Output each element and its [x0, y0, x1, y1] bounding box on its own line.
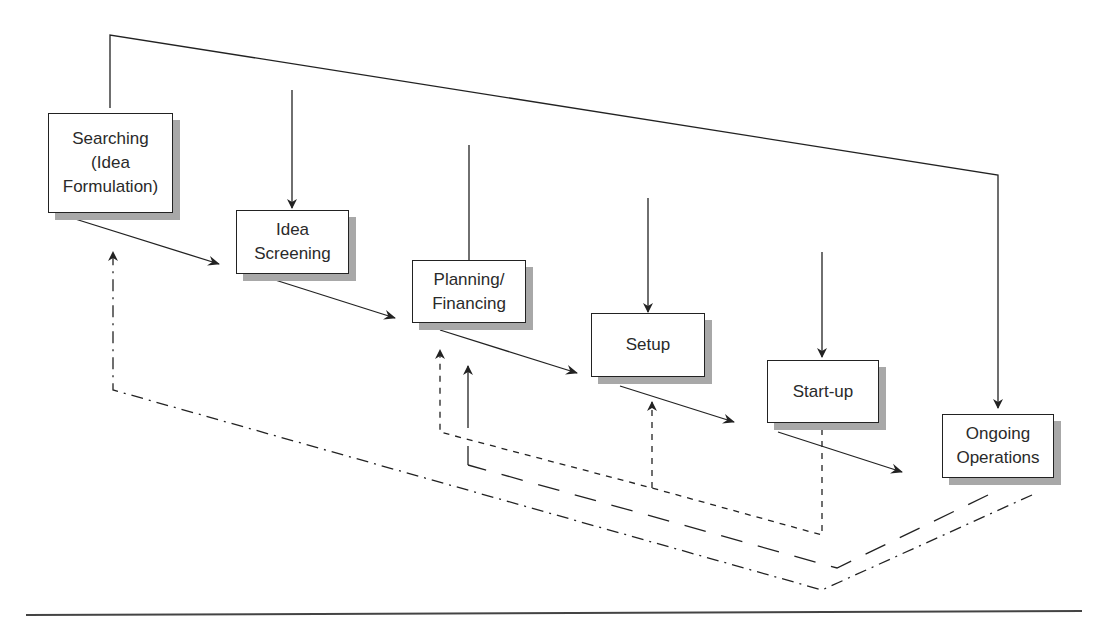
stage-ongoing-operations-label: Ongoing Operations — [956, 422, 1039, 470]
stage-planning-financing-label: Planning/ Financing — [432, 268, 506, 316]
feedback-startup — [440, 350, 822, 535]
stage-ongoing-operations: Ongoing Operations — [942, 414, 1054, 478]
stage-searching: Searching (Idea Formulation) — [48, 113, 173, 213]
feedback-ongoing-searching — [113, 252, 1032, 590]
stage-setup: Setup — [591, 313, 705, 377]
feedback-ongoing-planning — [468, 366, 988, 568]
stage-setup-label: Setup — [626, 333, 670, 357]
bottom-rule — [26, 611, 1082, 615]
flow-connectors — [0, 0, 1107, 637]
stage-idea-screening: Idea Screening — [236, 210, 349, 274]
forward-arrows — [72, 218, 902, 472]
stage-planning-financing: Planning/ Financing — [412, 260, 526, 323]
stage-startup: Start-up — [767, 360, 879, 423]
stage-searching-label: Searching (Idea Formulation) — [63, 127, 158, 199]
stage-startup-label: Start-up — [793, 380, 853, 404]
stage-idea-screening-label: Idea Screening — [254, 218, 331, 266]
